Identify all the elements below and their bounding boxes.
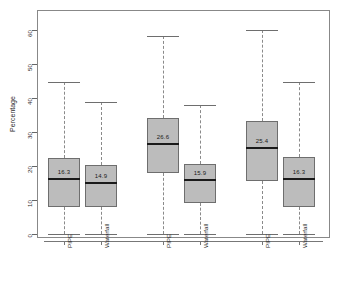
- median-value-label: 15.9: [194, 170, 206, 176]
- median-value-label: 25.4: [256, 138, 268, 144]
- whisker-lower: [262, 181, 263, 234]
- y-axis-tick-label-text: 30: [27, 132, 33, 139]
- y-axis-title: Percentage: [6, 0, 18, 228]
- x-axis-line: [44, 241, 323, 242]
- median-value-label: 26.6: [157, 134, 169, 140]
- whisker-cap-upper: [184, 105, 216, 106]
- whisker-cap-upper: [246, 30, 278, 31]
- y-axis-title-label: Percentage: [9, 96, 16, 132]
- whisker-cap-lower: [246, 234, 278, 235]
- median-line: [283, 178, 315, 180]
- x-axis-tick-label-text: Waterfall: [104, 224, 110, 248]
- y-axis-tick-label-text: 20: [27, 166, 33, 173]
- x-axis-tick: [262, 241, 263, 245]
- whisker-upper: [64, 82, 65, 158]
- whisker-lower: [299, 207, 300, 234]
- x-axis-tick-label: Waterfall: [203, 248, 204, 249]
- box-iqr: [246, 121, 278, 181]
- x-axis-tick-label: Waterfall: [302, 248, 303, 249]
- whisker-cap-lower: [48, 234, 80, 235]
- whisker-cap-upper: [85, 102, 117, 103]
- whisker-cap-lower: [184, 234, 216, 235]
- y-axis-tick-label-text: 50: [27, 64, 33, 71]
- whisker-upper: [200, 105, 201, 164]
- whisker-lower: [200, 203, 201, 234]
- x-axis-tick-label-text: PIPE: [67, 234, 73, 248]
- box-iqr: [48, 158, 80, 208]
- x-axis-tick-label: PIPE: [166, 248, 167, 249]
- x-axis-tick: [163, 241, 164, 245]
- whisker-upper: [299, 82, 300, 157]
- whisker-cap-upper: [147, 36, 179, 37]
- x-axis-tick-label-text: Waterfall: [203, 224, 209, 248]
- y-axis-tick-label: 60: [29, 30, 30, 31]
- median-value-label: 14.9: [95, 173, 107, 179]
- y-axis-tick-label: 20: [29, 166, 30, 167]
- y-axis-tick-label-text: 40: [27, 98, 33, 105]
- y-axis-tick-label: 0: [29, 234, 30, 235]
- median-value-label: 16.3: [293, 169, 305, 175]
- y-axis: 0102030405060: [30, 10, 37, 238]
- x-axis-tick-label: Waterfall: [104, 248, 105, 249]
- x-axis-tick-label-text: Waterfall: [302, 224, 308, 248]
- y-axis-tick-label: 50: [29, 64, 30, 65]
- whisker-lower: [101, 207, 102, 234]
- median-line: [48, 178, 80, 180]
- median-line: [147, 143, 179, 145]
- box-iqr: [85, 165, 117, 208]
- y-axis-tick-label: 30: [29, 132, 30, 133]
- whisker-cap-upper: [283, 82, 315, 83]
- whisker-upper: [262, 30, 263, 121]
- x-axis-tick: [299, 241, 300, 245]
- median-line: [85, 182, 117, 184]
- whisker-upper: [163, 36, 164, 118]
- box-iqr: [283, 157, 315, 208]
- whisker-upper: [101, 102, 102, 165]
- x-axis-tick-label-text: PIPE: [166, 234, 172, 248]
- x-axis-tick: [101, 241, 102, 245]
- y-axis-tick-label: 40: [29, 98, 30, 99]
- x-axis-tick-label: PIPE: [67, 248, 68, 249]
- x-axis-tick: [200, 241, 201, 245]
- whisker-lower: [163, 173, 164, 234]
- y-axis-tick-label-text: 60: [27, 30, 33, 37]
- y-axis-tick-label-text: 0: [27, 234, 33, 237]
- whisker-cap-lower: [283, 234, 315, 235]
- x-axis-tick-label: PIPE: [265, 248, 266, 249]
- boxplot-figure: Percentage 0102030405060 (i)(ii)(iii) 16…: [0, 0, 345, 285]
- box-iqr: [147, 118, 179, 172]
- whisker-cap-lower: [85, 234, 117, 235]
- median-value-label: 16.3: [58, 169, 70, 175]
- median-line: [246, 147, 278, 149]
- y-axis-tick-label: 10: [29, 200, 30, 201]
- x-axis-tick: [64, 241, 65, 245]
- whisker-cap-upper: [48, 82, 80, 83]
- y-axis-tick-label-text: 10: [27, 200, 33, 207]
- whisker-cap-lower: [147, 234, 179, 235]
- whisker-lower: [64, 207, 65, 234]
- median-line: [184, 179, 216, 181]
- x-axis-tick-label-text: PIPE: [265, 234, 271, 248]
